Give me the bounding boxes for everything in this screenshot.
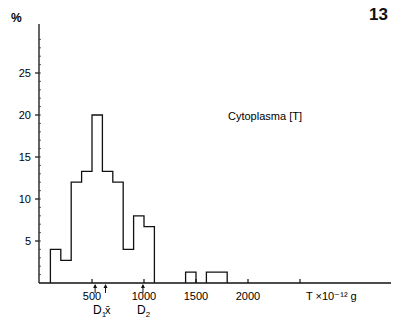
x-tick-label: 500 (83, 290, 101, 302)
histogram-chart: 510152025%500100015002000T ×10⁻¹² gD1x̄D… (0, 0, 418, 333)
x-axis-label: T ×10⁻¹² g (306, 290, 357, 302)
marker-label-mean: x̄ (105, 304, 111, 316)
y-axis-label: % (11, 11, 22, 25)
x-tick-label: 2000 (236, 290, 260, 302)
y-tick-label: 5 (25, 235, 31, 247)
x-tick-label: 1000 (132, 290, 156, 302)
arrow-head-icon (93, 284, 97, 288)
axes (35, 24, 391, 283)
arrow-head-icon (141, 284, 145, 288)
y-tick-label: 15 (19, 151, 31, 163)
chart-annotation: Cytoplasma [T] (228, 110, 302, 122)
y-tick-label: 20 (19, 109, 31, 121)
marker-label-d2: D2 (137, 303, 151, 319)
x-tick-label: 1500 (184, 290, 208, 302)
y-tick-label: 25 (19, 67, 31, 79)
axis-labels: 510152025%500100015002000T ×10⁻¹² gD1x̄D… (11, 11, 357, 319)
y-tick-label: 10 (19, 193, 31, 205)
histogram-bars (50, 115, 227, 283)
arrow-head-icon (104, 284, 108, 288)
histogram-outline (50, 115, 227, 283)
